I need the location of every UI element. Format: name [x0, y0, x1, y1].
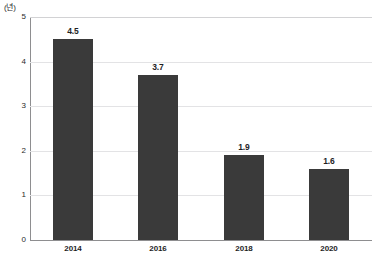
gridline [30, 17, 372, 18]
y-tick-label: 3 [2, 102, 26, 110]
x-axis-tick-labels: 2014201620182020 [30, 245, 372, 259]
y-axis-tick-labels: 5 4 3 2 1 0 [0, 17, 26, 240]
y-axis-unit-label: (년) [4, 1, 16, 12]
gridline [30, 240, 372, 241]
x-tick-label: 2020 [299, 245, 359, 253]
x-tick-label: 2018 [214, 245, 274, 253]
plot-area: 4.53.71.91.6 [30, 17, 372, 240]
bar-value-label: 1.9 [214, 143, 274, 152]
bar-chart: (년) 5 4 3 2 1 0 4.53.71.91.6 20142016201… [0, 0, 379, 260]
y-tick-label: 4 [2, 58, 26, 66]
y-tick-label: 5 [2, 13, 26, 21]
y-tick-label: 1 [2, 191, 26, 199]
bar[interactable] [309, 169, 349, 240]
bar-value-label: 3.7 [128, 63, 188, 72]
y-tick-label: 2 [2, 147, 26, 155]
x-tick-label: 2016 [128, 245, 188, 253]
bar[interactable] [138, 75, 178, 240]
bar[interactable] [53, 39, 93, 240]
x-tick-label: 2014 [43, 245, 103, 253]
bar-value-label: 4.5 [43, 27, 103, 36]
bar[interactable] [224, 155, 264, 240]
bar-value-label: 1.6 [299, 157, 359, 166]
y-tick-label: 0 [2, 236, 26, 244]
